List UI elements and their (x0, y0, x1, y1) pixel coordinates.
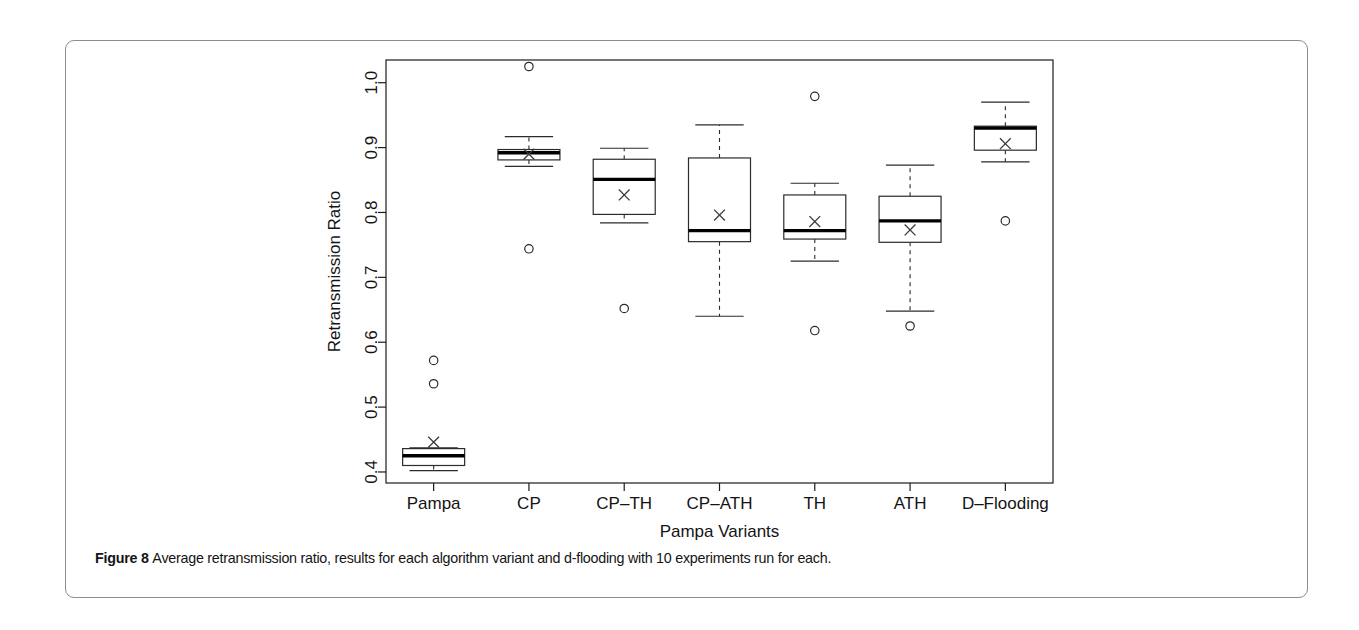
y-axis-tick-label: 0.8 (363, 201, 382, 225)
box-group-dflooding (974, 102, 1036, 225)
boxplot-svg: 0.40.50.60.70.80.91.0Retransmission Rati… (0, 0, 1359, 630)
outlier-point (620, 304, 628, 312)
x-axis-tick-label: CP (517, 494, 541, 513)
y-axis-tick-label: 1.0 (363, 71, 382, 95)
x-axis-tick-label: CP–ATH (687, 494, 753, 513)
caption-label: Figure 8 (95, 550, 149, 566)
box-group-cpth (593, 148, 655, 312)
outlier-point (429, 356, 437, 364)
y-axis-title: Retransmission Ratio (325, 191, 344, 353)
y-axis-tick-label: 0.7 (363, 266, 382, 290)
outlier-point (429, 380, 437, 388)
x-axis-tick-label: D–Flooding (962, 494, 1049, 513)
y-axis-tick-label: 0.4 (363, 460, 382, 484)
outlier-point (1001, 217, 1009, 225)
x-axis-title: Pampa Variants (660, 522, 780, 541)
y-axis-tick-label: 0.9 (363, 136, 382, 160)
box-group-ath (879, 165, 941, 330)
box-iqr (784, 195, 846, 239)
y-axis-tick-label: 0.5 (363, 395, 382, 419)
x-axis-tick-label: Pampa (407, 494, 461, 513)
box-group-th (784, 92, 846, 335)
box-group-cpath (689, 125, 751, 316)
box-group-cp (498, 62, 560, 253)
x-axis-tick-label: CP–TH (596, 494, 652, 513)
x-axis-tick-label: ATH (894, 494, 927, 513)
outlier-point (811, 326, 819, 334)
outlier-point (906, 322, 914, 330)
box-group-pampa (403, 356, 465, 470)
box-iqr (593, 159, 655, 214)
y-axis-tick-label: 0.6 (363, 330, 382, 354)
boxplot-chart: 0.40.50.60.70.80.91.0Retransmission Rati… (0, 0, 1359, 630)
outlier-point (525, 62, 533, 70)
figure-caption: Figure 8 Average retransmission ratio, r… (95, 550, 1275, 566)
caption-text: Average retransmission ratio, results fo… (152, 550, 831, 566)
plot-frame (386, 60, 1053, 483)
outlier-point (525, 245, 533, 253)
x-axis-tick-label: TH (803, 494, 826, 513)
outlier-point (811, 92, 819, 100)
